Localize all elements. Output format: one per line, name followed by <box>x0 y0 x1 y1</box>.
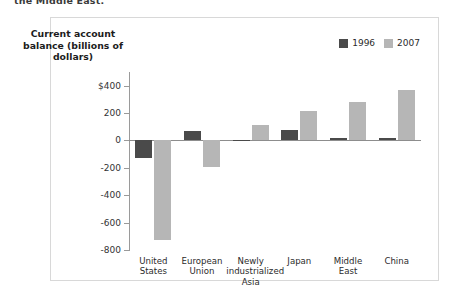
category-label-middle-east: Middle East <box>324 256 373 277</box>
y-tick-label: -400 <box>101 190 121 200</box>
plot-area: $4002000-200-400-600-800 United StatesEu… <box>129 72 421 250</box>
bar-2007-japan <box>300 111 317 140</box>
legend-item-2007: 2007 <box>384 38 420 48</box>
bar-2007-china <box>398 90 415 141</box>
bar-2007-european-union <box>203 140 220 167</box>
y-tick-mark <box>124 195 130 196</box>
bar-2007-newly-industrialized-asia <box>252 125 269 140</box>
y-tick-label: 0 <box>115 135 121 145</box>
y-tick-label: -200 <box>101 163 121 173</box>
category-label-european-union: European Union <box>178 256 227 277</box>
bar-1996-china <box>379 138 396 141</box>
y-tick-label: $400 <box>98 81 121 91</box>
category-label-united-states: United States <box>129 256 178 277</box>
y-tick-mark <box>124 168 130 169</box>
y-tick-label: -600 <box>101 218 121 228</box>
y-tick-mark <box>124 86 130 87</box>
y-tick-mark <box>124 113 130 114</box>
legend-swatch-1996-icon <box>339 39 348 48</box>
legend-item-1996: 1996 <box>339 38 375 48</box>
category-label-china: China <box>372 256 421 266</box>
bar-1996-united-states <box>135 140 152 157</box>
y-tick-label: 200 <box>104 108 121 118</box>
y-tick-label: -800 <box>101 245 121 255</box>
bar-2007-united-states <box>154 140 171 240</box>
legend-label-2007: 2007 <box>397 38 420 48</box>
caption-text: the Middle East. <box>14 0 104 6</box>
zero-baseline <box>129 140 421 142</box>
category-label-japan: Japan <box>275 256 324 266</box>
bar-1996-newly-industrialized-asia <box>233 140 250 141</box>
y-axis-title: Current account balance (billions of dol… <box>17 28 129 63</box>
bar-1996-middle-east <box>330 138 347 141</box>
legend-label-1996: 1996 <box>352 38 375 48</box>
y-tick-mark <box>124 250 130 251</box>
legend-swatch-2007-icon <box>384 39 393 48</box>
y-tick-mark <box>124 223 130 224</box>
bar-2007-middle-east <box>349 102 366 140</box>
figure-frame: Current account balance (billions of dol… <box>50 17 439 281</box>
bar-1996-japan <box>281 130 298 140</box>
category-label-newly-industrialized-asia: Newly industrialized Asia <box>226 256 275 287</box>
chart-legend: 1996 2007 <box>339 38 420 48</box>
bar-1996-european-union <box>184 131 201 141</box>
